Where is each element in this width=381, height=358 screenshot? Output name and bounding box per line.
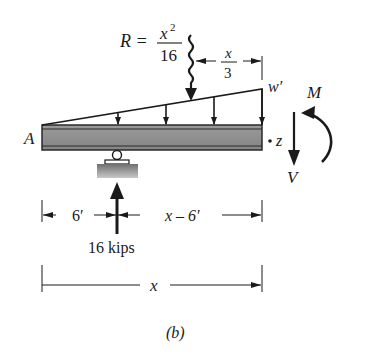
resultant-denominator: 16 — [160, 46, 177, 65]
resultant-lhs: R = — [119, 31, 148, 51]
reaction-arrow-icon — [110, 182, 124, 234]
reaction-label: 16 kips — [88, 239, 135, 257]
resultant-formula: R = x 2 16 — [119, 21, 182, 65]
dim-total-x: x — [149, 276, 158, 295]
beam — [42, 125, 262, 150]
svg-text:R =: R = — [119, 31, 148, 51]
resultant-position-dimension: x 3 — [196, 45, 262, 81]
point-a-label: A — [23, 129, 35, 148]
resultant-numerator: x — [159, 24, 168, 43]
roller-support-icon — [97, 151, 138, 179]
dim-x-minus-six: x – 6′ — [164, 207, 200, 224]
x-over-3-denominator: 3 — [224, 65, 232, 81]
resultant-exponent: 2 — [170, 21, 176, 33]
free-body-diagram: A w′ R = x 2 16 x 3 16 kips — [0, 0, 381, 358]
x-over-3-numerator: x — [224, 45, 232, 61]
w-prime-label: w′ — [268, 78, 283, 95]
dim-six-feet: 6′ — [72, 207, 84, 224]
moment-label: M — [306, 83, 322, 102]
figure-caption: (b) — [166, 324, 185, 342]
shear-arrow-icon — [288, 112, 300, 166]
point-z-dot-icon — [268, 139, 272, 143]
resultant-wavy-arrow-icon — [185, 35, 197, 101]
point-z-label: z — [275, 132, 283, 149]
distributed-load — [42, 89, 262, 125]
shear-label: V — [287, 168, 300, 187]
moment-arc-icon — [301, 106, 331, 162]
